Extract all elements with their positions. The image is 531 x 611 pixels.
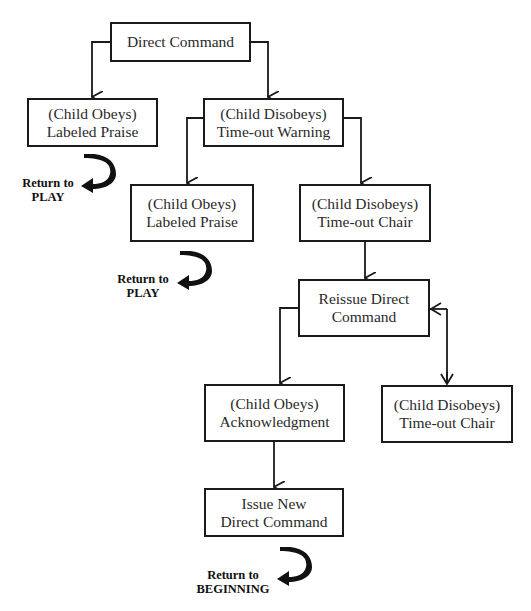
node-label: Labeled Praise bbox=[146, 213, 238, 231]
curved-return-arrow-icon bbox=[176, 251, 212, 291]
node-label: Time-out Warning bbox=[217, 123, 331, 141]
node-disobeys-warning: (Child Disobeys) Time-out Warning bbox=[203, 98, 344, 147]
curved-return-arrow-icon bbox=[80, 154, 116, 194]
node-label: Reissue Direct bbox=[319, 290, 410, 308]
node-label: (Child Obeys) bbox=[148, 195, 236, 213]
return-label-line: PLAY bbox=[18, 190, 78, 204]
node-disobeys-chair-1: (Child Disobeys) Time-out Chair bbox=[299, 184, 431, 242]
node-label: Command bbox=[332, 308, 397, 326]
node-label: Labeled Praise bbox=[47, 123, 139, 141]
node-label: (Child Disobeys) bbox=[312, 195, 418, 213]
time-out-flowchart: Direct Command (Child Obeys) Labeled Pra… bbox=[0, 0, 531, 611]
return-play-2-label: Return to PLAY bbox=[110, 272, 176, 300]
node-label: Issue New bbox=[242, 495, 307, 513]
node-label: Acknowledgment bbox=[219, 413, 329, 431]
node-label: Time-out Chair bbox=[317, 213, 412, 231]
node-label: (Child Obeys) bbox=[230, 395, 318, 413]
node-direct-command: Direct Command bbox=[110, 22, 251, 62]
curved-return-arrow-icon bbox=[276, 547, 312, 587]
return-beginning-label: Return to BEGINNING bbox=[188, 568, 278, 596]
node-obeys-praise-1: (Child Obeys) Labeled Praise bbox=[27, 98, 158, 147]
return-label-line: Return to bbox=[188, 568, 278, 582]
node-disobeys-chair-2: (Child Disobeys) Time-out Chair bbox=[381, 385, 513, 443]
edge-direct-to-praise1 bbox=[92, 42, 111, 97]
node-label: Time-out Chair bbox=[399, 414, 494, 432]
node-label: (Child Disobeys) bbox=[394, 396, 500, 414]
node-label: Direct Command bbox=[220, 513, 327, 531]
node-obeys-praise-2: (Child Obeys) Labeled Praise bbox=[130, 184, 254, 242]
return-label-line: Return to bbox=[18, 176, 78, 190]
node-label: (Child Disobeys) bbox=[220, 105, 326, 123]
edge-reissue-to-ack bbox=[280, 308, 298, 383]
node-issue-new-command: Issue New Direct Command bbox=[204, 488, 344, 537]
edge-warning-to-chair1 bbox=[344, 118, 361, 183]
return-label-line: Return to bbox=[110, 272, 176, 286]
node-label: (Child Obeys) bbox=[48, 105, 136, 123]
node-obeys-acknowledgment: (Child Obeys) Acknowledgment bbox=[204, 384, 345, 442]
node-label: Direct Command bbox=[127, 33, 234, 51]
return-label-line: PLAY bbox=[110, 286, 176, 300]
edge-direct-to-warning bbox=[250, 42, 268, 97]
node-reissue-command: Reissue Direct Command bbox=[298, 279, 430, 337]
return-play-1-label: Return to PLAY bbox=[18, 176, 78, 204]
return-label-line: BEGINNING bbox=[188, 582, 278, 596]
